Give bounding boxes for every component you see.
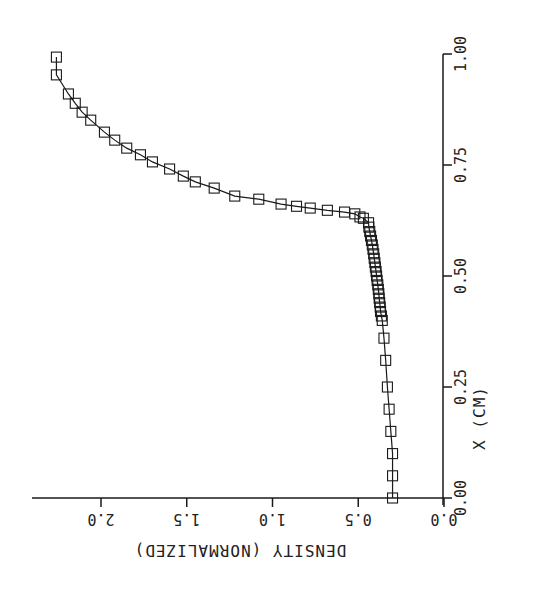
- y-tick-label: 0.5: [345, 510, 372, 528]
- y-tick-label: 0.0: [430, 510, 457, 528]
- x-tick-label: 0.75: [452, 147, 470, 183]
- x-axis: 0.000.250.500.751.00 X (CM): [443, 36, 489, 516]
- x-tick-label: 0.50: [452, 258, 470, 294]
- y-tick-label: 1.0: [259, 510, 286, 528]
- y-tick-label: 1.5: [173, 510, 200, 528]
- x-tick-label: 0.25: [452, 369, 470, 405]
- data-markers: [51, 52, 397, 503]
- x-tick-label: 1.00: [452, 36, 470, 72]
- density-profile-chart: 0.000.250.500.751.00 X (CM) 0.00.51.01.5…: [0, 0, 534, 597]
- y-axis-title: DENSITY (NORMALIZED): [134, 541, 347, 560]
- y-tick-label: 2.0: [87, 510, 114, 528]
- x-axis-title: X (CM): [470, 386, 489, 450]
- data-line: [56, 57, 392, 498]
- y-axis: 0.00.51.01.52.0 DENSITY (NORMALIZED): [32, 498, 458, 560]
